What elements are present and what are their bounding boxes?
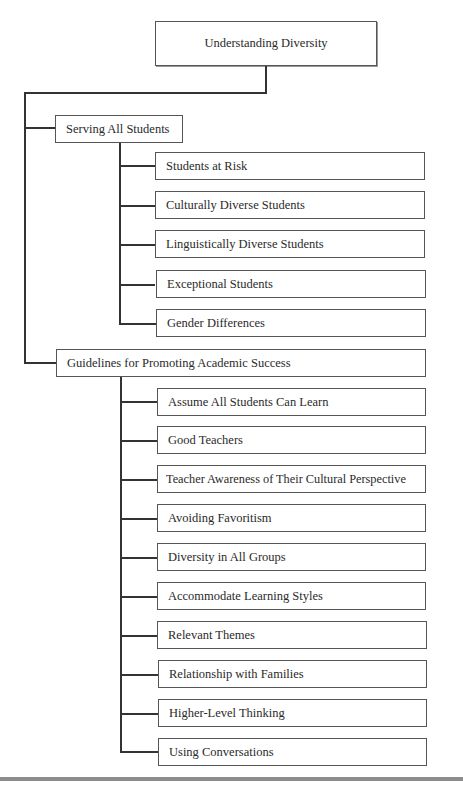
page-divider-rule [0,777,463,781]
leaf-node-using-conversations: Using Conversations [158,738,427,766]
connector-guidelines-vertical [120,377,122,753]
leaf-node-label: Gender Differences [167,317,265,330]
connector-leaf [119,323,156,325]
leaf-node-label: Relevant Themes [168,629,255,642]
leaf-node-diversity-in-all-groups: Diversity in All Groups [157,543,426,571]
leaf-node-gender-differences: Gender Differences [156,309,426,337]
connector-trunk-vertical [24,92,26,364]
leaf-node-label: Higher-Level Thinking [169,707,285,720]
connector-serving-vertical [119,143,121,324]
leaf-node-relationship-with-families: Relationship with Families [158,660,427,688]
leaf-node-assume-all-students-can-learn: Assume All Students Can Learn [157,388,426,416]
connector-branch-serving [24,127,55,129]
leaf-node-label: Good Teachers [168,434,243,447]
connector-leaf [119,205,155,207]
connector-leaf [120,401,157,403]
leaf-node-label: Exceptional Students [167,278,273,291]
root-node: Understanding Diversity [155,21,377,66]
connector-leaf [119,165,155,167]
connector-leaf [119,284,155,286]
connector-leaf [119,244,155,246]
leaf-node-label: Teacher Awareness of Their Cultural Pers… [166,473,406,485]
connector-root-down [265,66,267,93]
connector-leaf [120,751,158,753]
leaf-node-label: Using Conversations [169,746,274,759]
connector-leaf [120,596,157,598]
leaf-node-label: Diversity in All Groups [168,551,286,564]
connector-leaf [120,440,157,442]
branch-node-serving-all-students: Serving All Students [55,115,183,143]
leaf-node-linguistically-diverse-students: Linguistically Diverse Students [155,230,425,258]
leaf-node-label: Accommodate Learning Styles [168,590,323,603]
leaf-node-label: Students at Risk [166,160,247,173]
leaf-node-accommodate-learning-styles: Accommodate Learning Styles [157,582,426,610]
leaf-node-label: Assume All Students Can Learn [168,396,328,409]
connector-leaf [120,479,157,481]
leaf-node-good-teachers: Good Teachers [157,426,426,454]
leaf-node-higher-level-thinking: Higher-Level Thinking [158,699,427,727]
connector-leaf [120,674,158,676]
connector-root-horizontal [24,92,267,94]
root-node-label: Understanding Diversity [204,37,327,50]
leaf-node-avoiding-favoritism: Avoiding Favoritism [157,504,426,532]
leaf-node-label: Culturally Diverse Students [166,199,305,212]
branch-node-label: Guidelines for Promoting Academic Succes… [67,357,291,370]
connector-branch-guidelines [24,362,56,364]
leaf-node-relevant-themes: Relevant Themes [157,621,427,649]
leaf-node-exceptional-students: Exceptional Students [156,270,426,298]
leaf-node-label: Avoiding Favoritism [168,512,272,525]
leaf-node-label: Relationship with Families [169,668,304,681]
leaf-node-label: Linguistically Diverse Students [166,238,324,251]
leaf-node-culturally-diverse-students: Culturally Diverse Students [155,191,425,219]
connector-leaf [120,518,157,520]
branch-node-guidelines-for-promoting-academic-success: Guidelines for Promoting Academic Succes… [56,349,426,377]
branch-node-label: Serving All Students [66,123,169,136]
connector-leaf [120,635,157,637]
leaf-node-students-at-risk: Students at Risk [155,152,425,180]
connector-leaf [120,713,158,715]
connector-leaf [120,557,157,559]
leaf-node-teacher-awareness: Teacher Awareness of Their Cultural Pers… [157,465,426,493]
